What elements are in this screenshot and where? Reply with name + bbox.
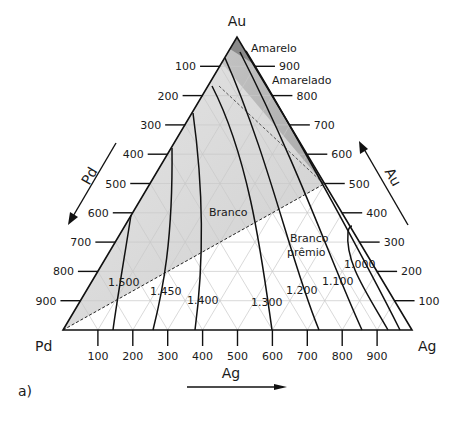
pd-axis-label: Pd [78, 164, 101, 187]
isotherm-label-1100: 1.100 [322, 275, 354, 288]
isotherm-label-1300: 1.300 [251, 296, 283, 309]
right-tick-label: 300 [384, 236, 405, 249]
vertex-ag-label: Ag [418, 338, 436, 354]
right-tick-label: 200 [401, 265, 422, 278]
bottom-tick-label: 300 [157, 350, 178, 363]
left-tick-label: 900 [35, 295, 56, 308]
ag-axis-label: Ag [222, 365, 240, 381]
right-tick-label: 900 [279, 60, 300, 73]
left-tick-label: 500 [105, 178, 126, 191]
vertex-pd-label: Pd [35, 338, 52, 354]
right-tick-label: 400 [366, 207, 387, 220]
right-tick-label: 100 [419, 295, 440, 308]
isotherm-label-1450: 1.450 [150, 285, 182, 298]
ag-axis-arrow [187, 384, 287, 390]
ternary-diagram: 9001001008002002007003003006004004005005… [0, 0, 460, 421]
region-amarelo-label: Amarelo [251, 42, 297, 55]
region-branco-premio-label-2: prêmio [287, 246, 326, 259]
right-tick-label: 500 [349, 178, 370, 191]
left-tick-label: 700 [70, 236, 91, 249]
right-tick-label: 600 [331, 148, 352, 161]
left-tick-label: 400 [123, 148, 144, 161]
bottom-tick-label: 900 [367, 350, 388, 363]
bottom-tick-label: 200 [122, 350, 143, 363]
region-branco-premio-label-1: Branco [290, 232, 329, 245]
left-tick-label: 200 [158, 90, 179, 103]
bottom-tick-label: 100 [87, 350, 108, 363]
left-tick-label: 800 [53, 265, 74, 278]
bottom-tick-label: 500 [227, 350, 248, 363]
right-tick-label: 700 [314, 119, 335, 132]
region-amarelado-label: Amarelado [272, 74, 332, 87]
bottom-tick-label: 400 [192, 350, 213, 363]
panel-label: a) [18, 383, 32, 399]
isotherm-label-1400: 1.400 [187, 294, 219, 307]
vertex-au-label: Au [228, 13, 246, 29]
isotherm-label-1000: 1.000 [344, 258, 376, 271]
bottom-tick-label: 800 [332, 350, 353, 363]
left-tick-label: 300 [140, 119, 161, 132]
left-tick-label: 100 [175, 60, 196, 73]
right-tick-label: 800 [296, 90, 317, 103]
bottom-tick-label: 700 [297, 350, 318, 363]
bottom-tick-label: 600 [262, 350, 283, 363]
isotherm-label-1500: 1.500 [108, 276, 140, 289]
region-branco-label: Branco [209, 206, 248, 219]
isotherm-label-1200: 1.200 [286, 284, 318, 297]
left-tick-label: 600 [88, 207, 109, 220]
